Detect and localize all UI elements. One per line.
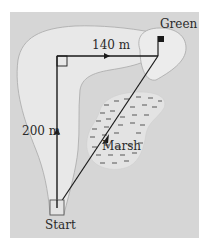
label-200m: 200 m — [22, 124, 61, 138]
label-marsh: Marsh — [102, 139, 141, 153]
label-140m: 140 m — [92, 38, 131, 52]
flag-icon — [158, 36, 164, 42]
golf-diagram: Green 140 m 200 m Marsh Start — [0, 0, 207, 249]
label-start: Start — [45, 218, 76, 232]
label-green: Green — [160, 17, 198, 31]
